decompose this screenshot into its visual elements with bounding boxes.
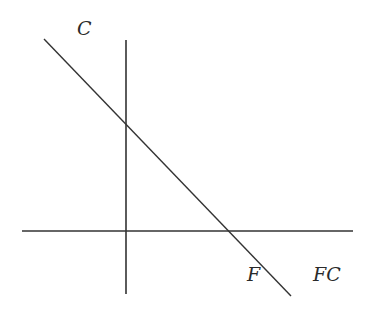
diagram-canvas: C F FC: [0, 0, 373, 309]
label-c: C: [77, 17, 92, 39]
diagonal-line: [44, 39, 291, 296]
label-fc: FC: [312, 263, 341, 285]
diagram-svg: C F FC: [0, 0, 373, 309]
label-f: F: [246, 263, 261, 285]
